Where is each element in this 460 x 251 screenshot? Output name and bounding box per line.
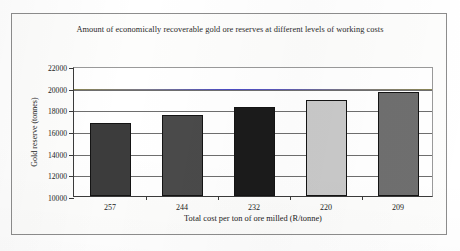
bar xyxy=(234,107,275,196)
y-axis-tick-label: 10000 xyxy=(48,194,67,203)
bar xyxy=(306,100,347,196)
bar xyxy=(378,92,419,196)
y-axis-tick xyxy=(69,68,74,69)
y-axis-tick xyxy=(69,176,74,177)
x-axis-tick-label: 220 xyxy=(320,203,332,212)
y-axis-tick-label: 16000 xyxy=(48,129,67,138)
x-axis-tick-label: 232 xyxy=(248,203,260,212)
x-axis-tick xyxy=(218,196,219,200)
y-axis-tick-label: 18000 xyxy=(48,107,67,116)
x-axis-tick xyxy=(290,196,291,200)
chart-title: Amount of economically recoverable gold … xyxy=(52,24,408,36)
y-axis-tick-label: 22000 xyxy=(48,64,67,73)
y-axis-tick xyxy=(69,111,74,112)
x-axis-tick-label: 209 xyxy=(392,203,404,212)
reference-line xyxy=(74,89,432,91)
x-axis-title: Total cost per ton of ore milled (R/tonn… xyxy=(73,214,433,223)
plot-area: 2200020000180001600014000120001000025724… xyxy=(73,67,433,197)
y-axis-title: Gold reserve (tonnes) xyxy=(30,67,42,197)
y-axis-tick xyxy=(69,198,74,199)
y-axis-tick xyxy=(69,133,74,134)
y-axis-tick-label: 20000 xyxy=(48,85,67,94)
bar xyxy=(162,115,203,196)
x-axis-tick-label: 244 xyxy=(176,203,188,212)
x-axis-tick xyxy=(362,196,363,200)
y-axis-tick-label: 14000 xyxy=(48,150,67,159)
bar xyxy=(90,123,131,196)
figure-frame: Amount of economically recoverable gold … xyxy=(11,13,447,235)
x-axis-tick xyxy=(146,196,147,200)
y-axis-tick xyxy=(69,155,74,156)
y-axis-tick-label: 12000 xyxy=(48,172,67,181)
x-axis-tick-label: 257 xyxy=(104,203,116,212)
